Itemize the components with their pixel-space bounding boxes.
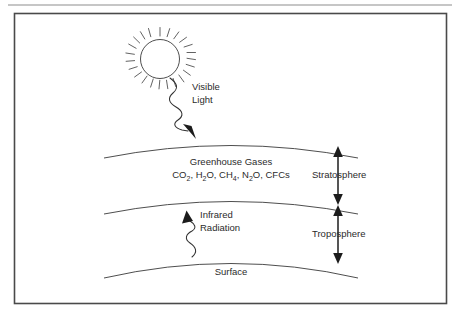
- infrared-label-line2: Radiation: [200, 222, 240, 233]
- formula-part-h2o: , H: [190, 169, 202, 180]
- troposphere-label: Troposphere: [312, 228, 366, 239]
- greenhouse-gases-label: Greenhouse Gases: [190, 156, 273, 167]
- greenhouse-effect-diagram: Greenhouse Gases CO2, H2O, CH4, N2O, CFC…: [0, 0, 462, 321]
- formula-part-n: , N: [237, 169, 249, 180]
- surface-label: Surface: [215, 266, 248, 277]
- greenhouse-gas-formula-label: CO2, H2O, CH4, N2O, CFCs: [172, 169, 290, 182]
- formula-part-co: CO: [172, 169, 186, 180]
- visible-light-label-line1: Visible: [192, 81, 220, 92]
- formula-part-tail: O, CFCs: [253, 169, 290, 180]
- visible-light-label-line2: Light: [192, 94, 213, 105]
- formula-part-ch: O, CH: [206, 169, 233, 180]
- infrared-label-line1: Infrared: [200, 209, 233, 220]
- stratosphere-label: Stratosphere: [312, 169, 366, 180]
